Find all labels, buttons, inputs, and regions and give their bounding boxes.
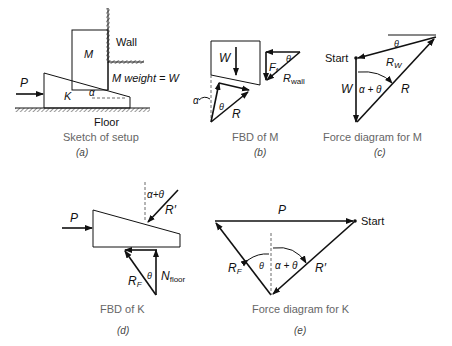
tag-c: (c) — [374, 147, 386, 158]
label-rf-e: RF — [228, 261, 243, 276]
label-alpha-b: α — [193, 95, 199, 106]
label-theta-wall: θ — [286, 54, 291, 64]
rprime-vector — [273, 222, 354, 294]
panel-d-fbd-k: P α+θ R′ RF θ Nfloor FBD of K (d) — [62, 182, 186, 336]
panel-c-force-m: Start θ RW W α + θ R Force diagram for M… — [323, 35, 436, 158]
label-p-d: P — [70, 211, 78, 225]
tag-a: (a) — [76, 147, 88, 158]
wedge-friction-arrow — [219, 83, 249, 90]
label-r-c: R — [401, 82, 410, 96]
label-angle-d: α+θ — [147, 189, 165, 200]
floor-hatch — [15, 108, 150, 112]
caption-e: Force diagram for K — [252, 303, 350, 315]
label-weight: M weight = W — [112, 72, 181, 84]
label-rprime-e: R′ — [315, 261, 327, 275]
label-m: M — [84, 48, 94, 60]
label-theta: θ — [219, 102, 224, 112]
tag-e: (e) — [294, 325, 306, 336]
label-k: K — [64, 90, 72, 102]
label-p-e: P — [278, 203, 286, 217]
caption-c: Force diagram for M — [323, 131, 422, 143]
panel-a-sketch: P M K α Wall M weight = W Floor Sketch o… — [15, 8, 181, 158]
start-point — [354, 56, 358, 60]
label-n-floor: Nfloor — [161, 269, 186, 284]
label-wall: Wall — [116, 36, 137, 48]
label-w: W — [219, 51, 232, 65]
label-theta-d: θ — [147, 271, 152, 281]
tag-d: (d) — [117, 325, 129, 336]
panel-b-fbd-m: W Ff θ Rwall θ R α FBD of M (b) — [193, 41, 305, 158]
panel-e-force-k: P Start RF θ α + θ R′ Force diagram for … — [215, 203, 384, 336]
block-m — [72, 30, 108, 90]
label-angle-c: α + θ — [359, 84, 382, 95]
label-floor: Floor — [94, 116, 119, 128]
label-start-e: Start — [361, 215, 384, 227]
label-rwall: Rwall — [283, 72, 305, 86]
label-theta-e: θ — [259, 261, 264, 271]
label-rw: RW — [386, 56, 403, 70]
label-alpha: α — [89, 87, 95, 98]
label-w-c: W — [341, 82, 354, 96]
label-p: P — [20, 76, 28, 90]
label-theta-c: θ — [394, 39, 399, 49]
label-angle-e: α + θ — [275, 260, 298, 271]
rf-vector — [216, 223, 271, 295]
caption-b: FBD of M — [232, 131, 278, 143]
label-rprime-d: R′ — [165, 203, 177, 217]
label-start-c: Start — [325, 52, 348, 64]
figure-canvas: P M K α Wall M weight = W Floor Sketch o… — [0, 0, 452, 346]
label-rf-d: RF — [128, 274, 143, 289]
tag-b: (b) — [254, 147, 266, 158]
label-r: R — [232, 107, 241, 121]
caption-d: FBD of K — [100, 303, 145, 315]
label-ff: Ff — [269, 61, 279, 74]
caption-a: Sketch of setup — [63, 131, 139, 143]
r-vector — [357, 39, 434, 122]
